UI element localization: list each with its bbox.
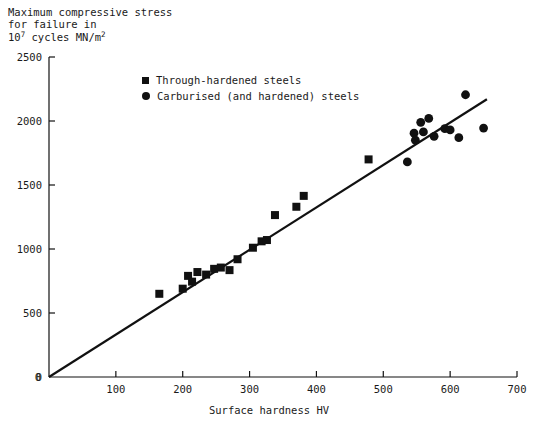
data-point-square xyxy=(292,203,300,211)
data-point-square xyxy=(249,244,257,252)
x-tick-label: 100 xyxy=(106,383,125,395)
y-tick-label: 0 xyxy=(36,371,42,383)
data-point-square xyxy=(234,255,242,263)
data-point-square xyxy=(271,211,279,219)
data-point-circle xyxy=(419,127,428,136)
legend-item-carburised: Carburised (and hardened) steels xyxy=(142,90,359,102)
data-point-circle xyxy=(403,158,412,167)
y-tick-label: 2000 xyxy=(17,115,42,127)
data-point-circle xyxy=(411,136,420,145)
data-point-square xyxy=(226,266,234,274)
data-point-square xyxy=(179,285,187,293)
y-tick-label: 500 xyxy=(23,307,42,319)
x-tick-label: 300 xyxy=(240,383,259,395)
legend-label-through-hardened: Through-hardened steels xyxy=(156,74,301,86)
x-tick-label: 400 xyxy=(307,383,326,395)
data-point-circle xyxy=(461,90,470,99)
x-axis-label: Surface hardness HV xyxy=(0,404,538,416)
data-point-square xyxy=(365,155,373,163)
square-marker-icon xyxy=(142,77,149,84)
x-tick-label: 700 xyxy=(508,383,527,395)
data-point-square xyxy=(263,236,271,244)
data-point-square xyxy=(193,268,201,276)
x-tick-label: 600 xyxy=(441,383,460,395)
legend-item-through-hardened: Through-hardened steels xyxy=(142,74,301,86)
axis-ticks xyxy=(49,57,517,377)
data-point-square xyxy=(188,278,196,286)
data-point-square xyxy=(155,290,163,298)
x-tick-label: 200 xyxy=(173,383,192,395)
legend-label-carburised: Carburised (and hardened) steels xyxy=(157,90,359,102)
circle-marker-icon xyxy=(142,92,150,100)
data-point-circle xyxy=(424,114,433,123)
data-point-square xyxy=(202,271,210,279)
data-point-circle xyxy=(454,133,463,142)
y-tick-label: 1500 xyxy=(17,179,42,191)
x-tick-label: 500 xyxy=(374,383,393,395)
data-point-circle xyxy=(430,132,439,141)
y-tick-label: 1000 xyxy=(17,243,42,255)
plot-canvas xyxy=(0,0,538,428)
chart-figure: Maximum compressive stress for failure i… xyxy=(0,0,538,428)
data-point-square xyxy=(217,264,225,272)
data-point-circle xyxy=(416,118,425,127)
data-point-circle xyxy=(446,126,455,135)
data-point-circle xyxy=(479,124,488,133)
y-tick-label: 2500 xyxy=(17,51,42,63)
data-point-square xyxy=(300,192,308,200)
data-points xyxy=(155,90,488,297)
